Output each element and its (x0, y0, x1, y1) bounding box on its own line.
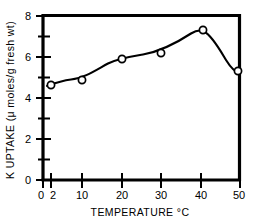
x-tick-label-30: 30 (155, 189, 167, 201)
data-point-50c (234, 67, 241, 74)
data-point-30c (157, 49, 164, 56)
data-line (47, 30, 239, 86)
data-point-2c (47, 81, 54, 88)
data-point-10c (78, 76, 85, 83)
x-tick-labels: 0 2 10 20 30 40 50 (38, 189, 245, 201)
x-tick-label-2: 2 (50, 189, 56, 201)
x-tick-label-40: 40 (195, 189, 207, 201)
data-point-20c (118, 55, 125, 62)
y-tick-label-8: 8 (25, 10, 31, 22)
k-uptake-vs-temperature-chart: 0 2 4 6 8 0 2 10 20 30 40 50 TEMPE (0, 0, 253, 221)
data-point-40c (199, 26, 206, 33)
chart-figure: 0 2 4 6 8 0 2 10 20 30 40 50 TEMPE (0, 0, 253, 221)
y-tick-label-4: 4 (25, 92, 31, 104)
x-tick-label-0: 0 (38, 189, 44, 201)
y-tick-label-2: 2 (25, 133, 31, 145)
x-tick-label-20: 20 (116, 189, 128, 201)
x-tick-label-50: 50 (233, 189, 245, 201)
y-tick-label-6: 6 (25, 51, 31, 63)
x-tick-label-10: 10 (76, 189, 88, 201)
y-axis-title: K UPTAKE (μ moles/g fresh wt) (4, 21, 16, 179)
y-tick-label-0: 0 (25, 174, 31, 186)
x-axis-title: TEMPERATURE °C (91, 206, 190, 218)
y-tick-labels: 0 2 4 6 8 (25, 10, 31, 186)
